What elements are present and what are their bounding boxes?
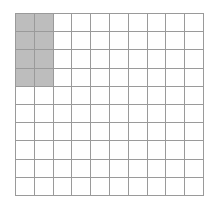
grid-cell	[185, 123, 204, 141]
grid-cell	[110, 50, 129, 68]
grid-cell-shaded	[16, 14, 35, 32]
grid-cell	[185, 160, 204, 178]
grid-cell	[54, 32, 73, 50]
grid-cell	[148, 105, 167, 123]
grid-cell-shaded	[16, 69, 35, 87]
grid-cell	[54, 69, 73, 87]
grid-cell	[148, 69, 167, 87]
grid-cell	[72, 50, 91, 68]
grid-cell	[166, 178, 185, 196]
grid-cell	[129, 14, 148, 32]
grid-cell	[129, 87, 148, 105]
grid-cell	[129, 32, 148, 50]
grid-cell-shaded	[35, 14, 54, 32]
grid-cell	[16, 178, 35, 196]
grid-cell	[166, 123, 185, 141]
grid-cell	[35, 123, 54, 141]
grid-cell	[16, 160, 35, 178]
grid-cell	[91, 105, 110, 123]
grid-cell	[110, 123, 129, 141]
grid-cell-shaded	[16, 32, 35, 50]
grid-cell	[166, 50, 185, 68]
grid-cell	[110, 160, 129, 178]
grid-cell	[16, 123, 35, 141]
grid-cell	[185, 105, 204, 123]
grid-cell	[54, 160, 73, 178]
grid-cell	[72, 105, 91, 123]
grid-cell	[110, 14, 129, 32]
grid-cell	[54, 178, 73, 196]
grid-cell	[148, 50, 167, 68]
grid-cell	[148, 141, 167, 159]
grid-cell	[185, 32, 204, 50]
grid-cell	[148, 87, 167, 105]
grid-cell	[91, 32, 110, 50]
grid-cell	[110, 178, 129, 196]
grid-cell	[72, 32, 91, 50]
grid-cell	[166, 141, 185, 159]
grid-cell	[72, 87, 91, 105]
grid-cell	[91, 141, 110, 159]
grid-cell	[54, 105, 73, 123]
grid-cell	[166, 87, 185, 105]
grid-cell	[129, 178, 148, 196]
grid-cell	[185, 141, 204, 159]
grid-cell	[166, 69, 185, 87]
grid-cell-shaded	[35, 69, 54, 87]
grid-cell	[166, 160, 185, 178]
grid-cell	[185, 178, 204, 196]
grid-cell	[148, 123, 167, 141]
grid-cell	[129, 69, 148, 87]
grid-cell	[72, 123, 91, 141]
grid-cell	[91, 87, 110, 105]
grid-cell	[129, 105, 148, 123]
grid-cell	[54, 141, 73, 159]
grid-cell	[129, 160, 148, 178]
grid-cell	[185, 69, 204, 87]
grid-cell	[35, 87, 54, 105]
grid-cell	[54, 87, 73, 105]
grid-cell	[110, 32, 129, 50]
grid-cell	[185, 50, 204, 68]
grid-cell	[148, 178, 167, 196]
grid-cell	[129, 123, 148, 141]
grid-cell	[16, 87, 35, 105]
grid-cell	[91, 160, 110, 178]
grid-cell	[110, 69, 129, 87]
grid-cell-shaded	[16, 50, 35, 68]
grid-cell	[91, 178, 110, 196]
grid-cell	[91, 50, 110, 68]
grid-cell	[35, 178, 54, 196]
grid-cell	[91, 69, 110, 87]
grid-cell	[16, 141, 35, 159]
grid-cell	[166, 32, 185, 50]
grid-cell	[166, 105, 185, 123]
grid-cell	[72, 14, 91, 32]
grid-cell	[148, 160, 167, 178]
grid-cell	[35, 105, 54, 123]
hundred-grid	[15, 13, 204, 196]
grid-cell	[72, 141, 91, 159]
grid-cell	[110, 87, 129, 105]
grid-cell	[54, 50, 73, 68]
grid-cell-shaded	[35, 32, 54, 50]
grid-cell	[54, 14, 73, 32]
grid-cell	[54, 123, 73, 141]
grid-cell	[110, 141, 129, 159]
grid-cell	[35, 141, 54, 159]
grid-cell	[72, 160, 91, 178]
grid-cell-shaded	[35, 50, 54, 68]
grid-cell	[129, 50, 148, 68]
grid-cell	[110, 105, 129, 123]
grid-cell	[16, 105, 35, 123]
grid-cell	[72, 178, 91, 196]
grid-cell	[129, 141, 148, 159]
grid-cell	[91, 14, 110, 32]
grid-cell	[148, 32, 167, 50]
grid-cell	[91, 123, 110, 141]
grid-cell	[185, 87, 204, 105]
grid-cell	[166, 14, 185, 32]
grid-cell	[185, 14, 204, 32]
grid-cell	[148, 14, 167, 32]
grid-cell	[72, 69, 91, 87]
